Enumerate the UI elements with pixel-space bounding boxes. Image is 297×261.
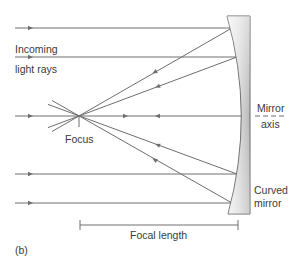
concave-mirror-diagram: Incoming light rays Focus Mirror axis Cu… bbox=[0, 0, 297, 261]
arrow-left-icon bbox=[154, 84, 160, 90]
reflected-ray-2 bbox=[48, 57, 237, 128]
arrow-left-icon bbox=[154, 142, 160, 148]
arrow-left-icon bbox=[155, 114, 160, 118]
incoming-label-line1: Incoming bbox=[15, 43, 58, 55]
incoming-label-line2: light rays bbox=[15, 63, 57, 75]
arrow-right-icon bbox=[28, 114, 33, 118]
arrow-right-icon bbox=[28, 201, 33, 205]
curved-mirror-label-line1: Curved bbox=[254, 184, 288, 196]
arrow-left-icon bbox=[151, 69, 158, 75]
mirror-axis-label-line1: Mirror bbox=[257, 102, 285, 114]
arrow-right-icon bbox=[123, 114, 128, 118]
panel-label: (b) bbox=[15, 244, 28, 256]
arrow-right-icon bbox=[28, 55, 33, 59]
arrow-right-icon bbox=[28, 172, 33, 176]
focal-length-label: Focal length bbox=[130, 229, 187, 241]
curved-mirror bbox=[227, 16, 250, 214]
mirror-axis-label-line2: axis bbox=[261, 118, 280, 130]
curved-mirror-label-line2: mirror bbox=[254, 197, 282, 209]
focus-label: Focus bbox=[65, 133, 94, 145]
arrow-right-icon bbox=[28, 26, 33, 30]
